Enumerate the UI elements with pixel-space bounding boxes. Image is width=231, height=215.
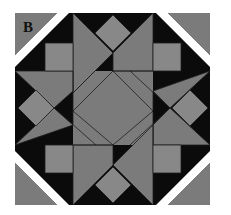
figure-label: B: [23, 19, 33, 36]
square-bottom-right: [153, 145, 181, 173]
square-top-right: [153, 43, 181, 71]
quilt-block-figure: [0, 0, 231, 215]
square-bottom-left: [45, 145, 73, 173]
square-top-left: [45, 43, 73, 71]
